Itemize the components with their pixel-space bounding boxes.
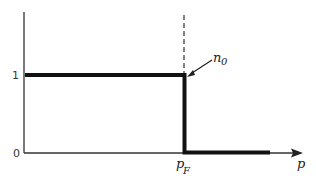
step-curve — [25, 75, 270, 153]
fermi-step-diagram: 1 0 n 0 p F p — [0, 0, 316, 178]
y-tick-1: 1 — [12, 69, 19, 82]
n0-pointer-arrowhead-icon — [187, 70, 195, 77]
pf-subscript: F — [182, 165, 191, 176]
n0-subscript: 0 — [221, 56, 228, 67]
y-tick-0: 0 — [13, 147, 20, 160]
n0-pointer-line — [192, 60, 212, 73]
x-axis-label: p — [297, 156, 306, 171]
